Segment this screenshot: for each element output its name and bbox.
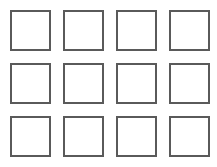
grid-square[interactable] [63,10,104,51]
grid-square[interactable] [10,63,51,104]
grid-square[interactable] [10,116,51,157]
grid-square[interactable] [63,116,104,157]
grid-square[interactable] [63,63,104,104]
grid-square[interactable] [169,10,210,51]
grid-square[interactable] [116,63,157,104]
square-grid [10,10,210,157]
grid-square[interactable] [169,116,210,157]
grid-square[interactable] [116,116,157,157]
grid-square[interactable] [169,63,210,104]
grid-square[interactable] [10,10,51,51]
grid-square[interactable] [116,10,157,51]
